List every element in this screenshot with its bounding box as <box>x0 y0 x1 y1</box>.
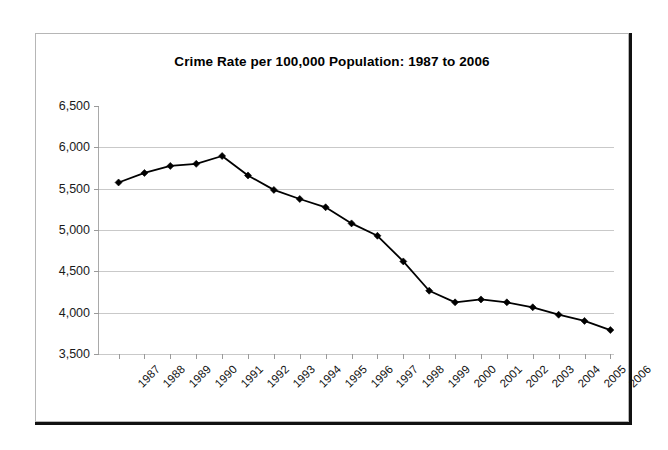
x-axis-label: 2003 <box>549 363 576 390</box>
x-axis-label: 1991 <box>239 363 266 390</box>
x-axis-label: 1997 <box>394 363 421 390</box>
data-point-marker <box>167 162 174 169</box>
y-axis-label: 6,000 <box>59 140 90 154</box>
x-axis-label: 1992 <box>264 363 291 390</box>
x-axis-tick <box>170 354 171 359</box>
x-axis-tick <box>222 354 223 359</box>
x-axis-tick <box>507 354 508 359</box>
x-axis-tick <box>481 354 482 359</box>
x-axis-tick <box>119 354 120 359</box>
chart-frame: Crime Rate per 100,000 Population: 1987 … <box>35 33 629 422</box>
x-axis-label: 1990 <box>213 363 240 390</box>
data-point-marker <box>115 179 122 186</box>
x-axis-tick <box>455 354 456 359</box>
x-axis-label: 1994 <box>316 363 343 390</box>
x-axis-tick <box>274 354 275 359</box>
x-axis-tick <box>559 354 560 359</box>
data-point-marker <box>452 299 459 306</box>
x-axis-tick <box>533 354 534 359</box>
x-axis-tick <box>403 354 404 359</box>
data-point-marker <box>296 196 303 203</box>
series-crime-rate <box>99 106 614 354</box>
y-axis-label: 6,500 <box>59 99 90 113</box>
x-axis-tick <box>610 354 611 359</box>
data-point-marker <box>193 160 200 167</box>
data-point-marker <box>270 186 277 193</box>
x-axis-tick <box>144 354 145 359</box>
data-point-marker <box>529 304 536 311</box>
series-line <box>119 156 611 330</box>
data-point-marker <box>503 299 510 306</box>
y-axis-label: 5,000 <box>59 223 90 237</box>
x-axis-tick <box>352 354 353 359</box>
y-axis-label: 4,000 <box>59 306 90 320</box>
x-axis-tick <box>377 354 378 359</box>
x-axis-label: 1998 <box>420 363 447 390</box>
x-axis-label: 2005 <box>601 363 628 390</box>
x-axis-tick <box>300 354 301 359</box>
x-axis-label: 1993 <box>290 363 317 390</box>
x-axis-label: 1989 <box>187 363 214 390</box>
chart-title: Crime Rate per 100,000 Population: 1987 … <box>36 54 628 69</box>
x-axis-label: 2004 <box>575 363 602 390</box>
x-axis-tick <box>196 354 197 359</box>
x-axis-tick <box>248 354 249 359</box>
x-axis-label: 2000 <box>472 363 499 390</box>
x-axis-label: 1999 <box>446 363 473 390</box>
y-axis-label: 5,500 <box>59 182 90 196</box>
x-axis-label: 2006 <box>627 363 654 390</box>
x-axis-label: 1996 <box>368 363 395 390</box>
data-point-marker <box>607 327 614 334</box>
x-axis-tick <box>326 354 327 359</box>
x-axis-label: 1987 <box>135 363 162 390</box>
x-axis-tick <box>585 354 586 359</box>
y-axis-tick <box>94 354 99 355</box>
data-point-marker <box>555 311 562 318</box>
data-point-marker <box>477 296 484 303</box>
y-axis-label: 4,500 <box>59 264 90 278</box>
data-point-marker <box>141 169 148 176</box>
x-axis-label: 1988 <box>161 363 188 390</box>
data-point-marker <box>581 317 588 324</box>
x-axis-label: 2002 <box>523 363 550 390</box>
plot-area: 6,5006,0005,5005,0004,5004,0003,500 1987… <box>99 106 614 354</box>
x-axis-label: 2001 <box>497 363 524 390</box>
series-markers <box>115 153 614 334</box>
x-axis-label: 1995 <box>342 363 369 390</box>
y-axis-label: 3,500 <box>59 347 90 361</box>
gridline <box>99 354 614 355</box>
x-axis-tick <box>429 354 430 359</box>
